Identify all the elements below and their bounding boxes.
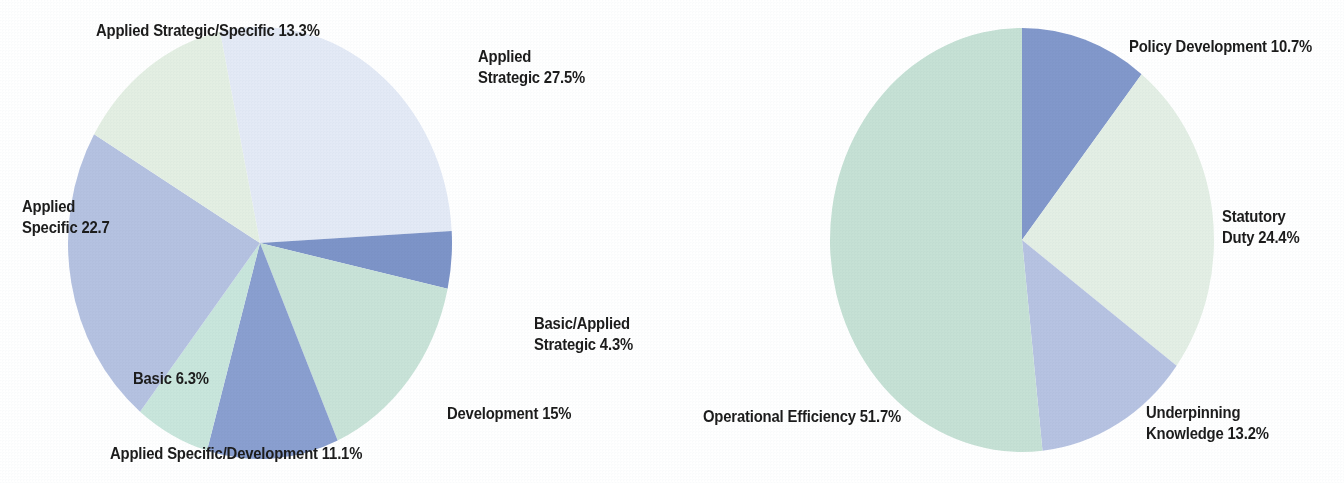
- pie-slice-label: Policy Development 10.7%: [1129, 36, 1312, 57]
- pie-slice-label: Applied Specific/Development 11.1%: [110, 443, 362, 464]
- pie-slice-label: Applied Specific 22.7: [22, 196, 110, 238]
- pie-slice: [830, 28, 1042, 452]
- pie-slice: [220, 27, 452, 243]
- pie-slice-label: Applied Strategic 27.5%: [478, 46, 585, 88]
- pie-slice-label: Applied Strategic/Specific 13.3%: [96, 20, 320, 41]
- chart-panel-research-type: Applied Strategic 27.5%Basic/Applied Str…: [0, 0, 672, 483]
- pie-slice-label: Basic/Applied Strategic 4.3%: [534, 313, 633, 355]
- pie-slice-label: Operational Efficiency 51.7%: [703, 406, 901, 427]
- chart-panel-activity-driver: Policy Development 10.7%Statutory Duty 2…: [672, 0, 1344, 483]
- pie-slice-label: Basic 6.3%: [133, 368, 209, 389]
- pie-chart-figure: Applied Strategic 27.5%Basic/Applied Str…: [0, 0, 1344, 483]
- pie-slice-label: Underpinning Knowledge 13.2%: [1146, 402, 1269, 444]
- pie-slice-label: Development 15%: [447, 403, 571, 424]
- pie-slice-label: Statutory Duty 24.4%: [1222, 206, 1299, 248]
